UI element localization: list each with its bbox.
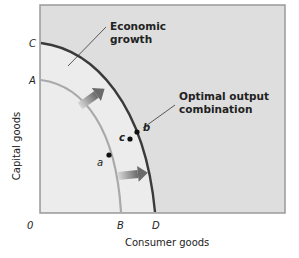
optimal-output-label: Optimal output xyxy=(179,90,269,102)
point-a-label: a xyxy=(97,157,103,168)
point-b-label: b xyxy=(143,122,150,133)
point-b xyxy=(134,129,139,134)
optimal-output-label-2: combination xyxy=(179,103,252,115)
x-tick-D: D xyxy=(152,220,160,231)
y-tick-A: A xyxy=(28,75,36,86)
y-tick-C: C xyxy=(29,38,36,49)
origin-label: 0 xyxy=(27,220,33,231)
x-tick-B: B xyxy=(117,220,124,231)
point-c xyxy=(127,136,132,141)
ppf-chart: a c b Economic growth Optimal output com… xyxy=(0,0,299,258)
x-axis-title: Consumer goods xyxy=(125,237,209,248)
y-axis-title: Capital goods xyxy=(11,112,22,180)
economic-growth-label: Economic xyxy=(110,20,166,32)
point-c-label: c xyxy=(119,132,125,143)
economic-growth-label-2: growth xyxy=(110,33,152,45)
point-a xyxy=(106,152,111,157)
